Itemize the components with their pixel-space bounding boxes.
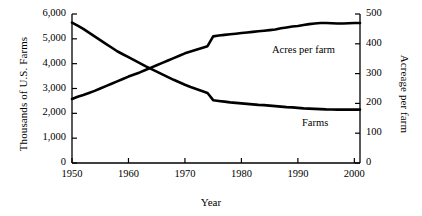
- plot-area: [0, 0, 422, 216]
- series-annotation-acres-per-farm: Acres per farm: [272, 44, 335, 55]
- series-line-acres-per-farm: [72, 23, 360, 99]
- series-annotation-farms: Farms: [302, 117, 328, 128]
- chart-container: Thousands of U.S. Farms Acreage per farm…: [0, 0, 422, 216]
